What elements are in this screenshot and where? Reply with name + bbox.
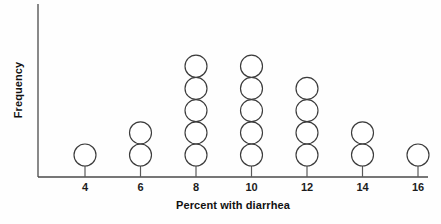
- data-dot: [241, 77, 263, 99]
- dot-plot-canvas: 46810121416 Percent with diarrhea Freque…: [0, 0, 441, 224]
- x-tick-label: 14: [356, 181, 369, 193]
- data-dot: [407, 144, 429, 166]
- x-axis-title: Percent with diarrhea: [176, 199, 291, 211]
- data-dot: [296, 77, 318, 99]
- dot-plot-figure: 46810121416 Percent with diarrhea Freque…: [0, 0, 441, 224]
- x-tick-labels-group: 46810121416: [82, 181, 424, 193]
- x-tick-label: 6: [137, 181, 143, 193]
- data-dot: [296, 122, 318, 144]
- data-dot: [185, 77, 207, 99]
- data-dot: [130, 144, 152, 166]
- x-tick-label: 10: [245, 181, 257, 193]
- dots-group: [74, 55, 429, 166]
- data-dot: [185, 144, 207, 166]
- data-dot: [241, 100, 263, 122]
- x-tick-label: 4: [82, 181, 89, 193]
- data-dot: [130, 122, 152, 144]
- stems-group: [85, 166, 418, 177]
- data-dot: [241, 122, 263, 144]
- x-tick-label: 16: [412, 181, 424, 193]
- data-dot: [296, 144, 318, 166]
- data-dot: [185, 122, 207, 144]
- y-axis-title: Frequency: [12, 61, 24, 118]
- data-dot: [296, 100, 318, 122]
- x-tick-label: 12: [301, 181, 313, 193]
- x-tick-label: 8: [193, 181, 199, 193]
- data-dot: [352, 122, 374, 144]
- data-dot: [185, 100, 207, 122]
- data-dot: [241, 144, 263, 166]
- data-dot: [74, 144, 96, 166]
- data-dot: [352, 144, 374, 166]
- data-dot: [185, 55, 207, 77]
- data-dot: [241, 55, 263, 77]
